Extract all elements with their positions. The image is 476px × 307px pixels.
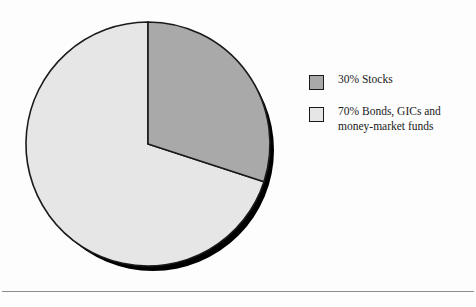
pie-chart-figure: 30% Stocks 70% Bonds, GICs and money-mar… <box>0 0 476 307</box>
pie-chart-svg <box>0 0 300 285</box>
legend-item-stocks: 30% Stocks <box>309 72 469 90</box>
legend-label-stocks: 30% Stocks <box>338 72 393 87</box>
legend-swatch-icon-stocks <box>309 75 324 90</box>
legend-item-bonds: 70% Bonds, GICs and money-market funds <box>309 104 469 134</box>
legend-label-bonds: 70% Bonds, GICs and money-market funds <box>338 104 441 134</box>
pie-chart-plot-area <box>0 0 300 285</box>
legend-swatch-icon-bonds <box>309 107 324 122</box>
chart-legend: 30% Stocks 70% Bonds, GICs and money-mar… <box>309 72 469 148</box>
bottom-divider <box>2 291 474 292</box>
